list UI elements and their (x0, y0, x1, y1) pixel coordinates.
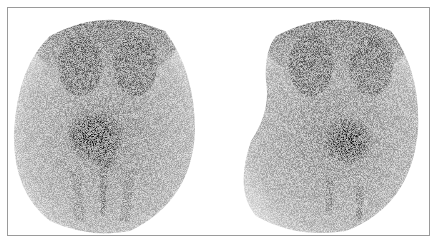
scan-image-right (226, 11, 426, 235)
figure-frame (7, 7, 430, 236)
scan-image-left (10, 11, 205, 235)
